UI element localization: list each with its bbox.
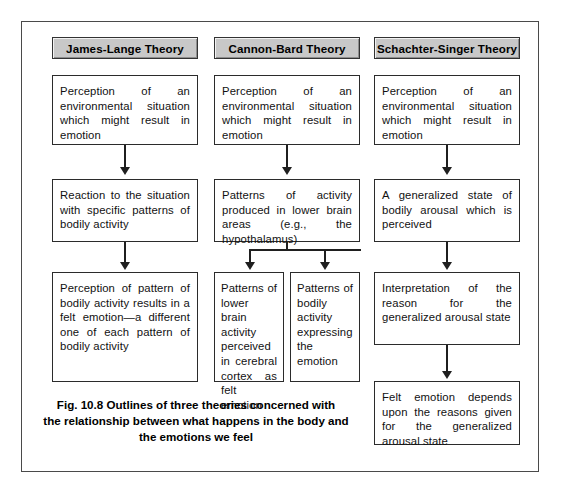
schachter-singer-step-4: Felt emotion depends upon the reasons gi… [374, 381, 520, 445]
james-lange-step-2: Reaction to the situation with specific … [52, 179, 198, 242]
connector-arrow-ss-2 [442, 262, 452, 270]
connector-arrow-cb-1 [282, 167, 292, 175]
theory-tab-cannon-bard: Cannon-Bard Theory [214, 37, 360, 59]
theory-tab-label: Schachter-Singer Theory [377, 42, 517, 55]
figure-caption-line-1: Fig. 10.8 Outlines of three theories con… [31, 397, 361, 413]
connector-line-ss-3 [446, 345, 448, 373]
cannon-bard-branch-1: Patterns of lower brain activity perceiv… [214, 272, 284, 382]
connector-line-jl-2 [124, 242, 126, 264]
theory-tab-james-lange: James-Lange Theory [52, 37, 198, 59]
figure-caption: Fig. 10.8 Outlines of three theories con… [31, 397, 361, 445]
connector-arrow-jl-1 [120, 167, 130, 175]
connector-arrow-cb-branch-right [320, 262, 330, 270]
connector-line-cb-branch-bar [249, 249, 361, 251]
figure-caption-line-2: the relationship between what happens in… [31, 413, 361, 429]
james-lange-step-3: Perception of pattern of bodily activity… [52, 272, 198, 382]
theory-tab-label: Cannon-Bard Theory [228, 42, 345, 55]
connector-arrow-jl-2 [120, 262, 130, 270]
connector-line-ss-1 [446, 145, 448, 169]
connector-line-ss-2 [446, 242, 448, 264]
connector-arrow-ss-3 [442, 371, 452, 379]
connector-arrow-cb-branch-left [245, 262, 255, 270]
theory-tab-schachter-singer: Schachter-Singer Theory [374, 37, 520, 59]
figure-caption-line-3: the emotions we feel [31, 429, 361, 445]
cannon-bard-branch-2: Patterns of bodily activity expressing t… [290, 272, 360, 382]
connector-line-jl-1 [124, 145, 126, 169]
schachter-singer-step-3: Interpretation of the reason for the gen… [374, 272, 520, 345]
connector-line-cb-1 [286, 145, 288, 169]
cannon-bard-step-1: Perception of an environmental situation… [214, 75, 360, 145]
connector-arrow-ss-1 [442, 167, 452, 175]
cannon-bard-step-2: Patterns of activity produced in lower b… [214, 179, 360, 242]
figure-frame: James-Lange Theory Perception of an envi… [21, 21, 539, 472]
james-lange-step-1: Perception of an environmental situation… [52, 75, 198, 145]
schachter-singer-step-2: A generalized state of bodily arousal wh… [374, 179, 520, 242]
schachter-singer-step-1: Perception of an environmental situation… [374, 75, 520, 145]
theory-tab-label: James-Lange Theory [66, 42, 184, 55]
